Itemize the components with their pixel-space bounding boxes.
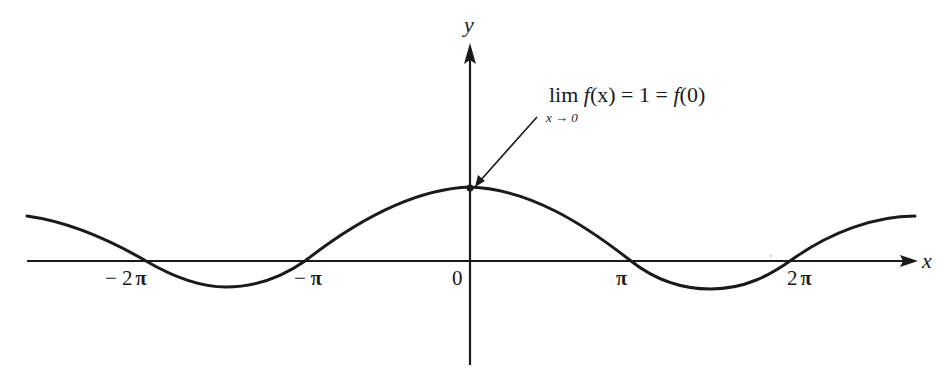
tick-pi: π bbox=[616, 268, 627, 289]
tick-2pi: 2π bbox=[787, 268, 811, 289]
limit-subscript: x → 0 bbox=[546, 111, 578, 124]
pi-symbol: π bbox=[801, 267, 812, 289]
tick-2pi-coef: 2 bbox=[787, 266, 798, 290]
x-axis-label: x bbox=[922, 250, 932, 272]
pi-symbol: π bbox=[616, 267, 627, 289]
annotation-arrow-line bbox=[480, 117, 537, 181]
origin-label: 0 bbox=[452, 268, 463, 289]
expr-end: (0) bbox=[680, 82, 706, 107]
y-axis-label: y bbox=[464, 14, 474, 36]
tick-neg-pi: −π bbox=[294, 268, 322, 289]
tick-neg-2pi: − 2π bbox=[105, 268, 147, 289]
pi-symbol: π bbox=[311, 267, 322, 289]
tick-neg-2pi-coef: − 2 bbox=[105, 266, 133, 290]
lim-word: lim bbox=[549, 82, 578, 107]
limit-annotation: lim f(x) = 1 = f(0) bbox=[549, 84, 705, 106]
graph-canvas bbox=[0, 0, 948, 385]
speck bbox=[770, 255, 772, 257]
pi-symbol: π bbox=[136, 267, 147, 289]
limit-point bbox=[467, 185, 474, 192]
expr-rest: (x) = 1 = bbox=[590, 82, 673, 107]
tick-neg-pi-coef: − bbox=[294, 266, 306, 290]
